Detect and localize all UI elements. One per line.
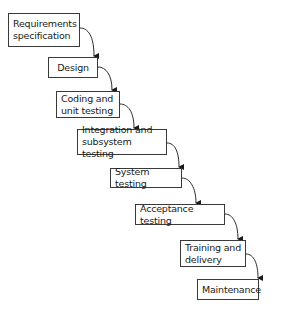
stage-label: Integration and subsystem testing bbox=[82, 124, 162, 160]
stage-label: Design bbox=[57, 62, 89, 74]
stage-coding-unit-testing: Coding and unit testing bbox=[56, 91, 120, 118]
stage-integration-subsystem-testing: Integration and subsystem testing bbox=[77, 129, 167, 155]
stage-label: Coding and unit testing bbox=[61, 93, 113, 117]
stage-label: Maintenance bbox=[202, 284, 261, 296]
arrow-design-to-coding bbox=[98, 67, 112, 90]
stage-training-delivery: Training and delivery bbox=[180, 240, 246, 267]
stage-system-testing: System testing bbox=[110, 168, 182, 188]
stage-requirements-specification: Requirements specification bbox=[8, 13, 80, 47]
arrow-requirements-to-design bbox=[80, 28, 94, 56]
stage-acceptance-testing: Acceptance testing bbox=[135, 204, 225, 225]
stage-label: Training and delivery bbox=[185, 242, 241, 266]
arrow-integration-to-system bbox=[167, 143, 179, 167]
stage-label: Requirements specification bbox=[13, 18, 77, 42]
arrow-acceptance-to-training bbox=[225, 214, 238, 239]
stage-design: Design bbox=[48, 57, 98, 78]
arrow-system-to-acceptance bbox=[182, 178, 196, 203]
arrow-training-to-maintenance bbox=[246, 254, 258, 278]
stage-maintenance: Maintenance bbox=[197, 279, 259, 300]
stage-label: System testing bbox=[115, 166, 177, 190]
stage-label: Acceptance testing bbox=[140, 203, 220, 227]
